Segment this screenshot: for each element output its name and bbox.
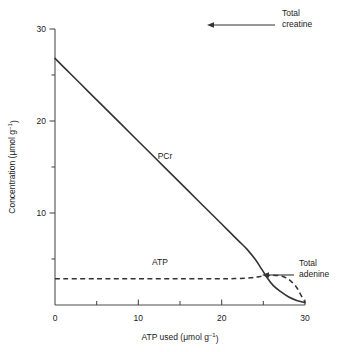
total-adenine-label-line2: adenine [299, 269, 330, 279]
data-series-group [55, 58, 305, 302]
series-inline-labels: PCr ATP [152, 151, 172, 267]
y-axis-title-main: Concentration (μmol g [7, 130, 17, 214]
concentration-vs-atp-used-line-chart: 102030 0102030 PCr ATP Total creatine To… [0, 0, 348, 352]
x-axis-title-close: ) [216, 334, 219, 344]
chart-figure: 102030 0102030 PCr ATP Total creatine To… [0, 0, 348, 352]
x-tick-label: 0 [53, 313, 58, 323]
x-axis-title: ATP used (μmol g−1) [141, 332, 218, 344]
total-adenine-label-line1: Total [299, 258, 317, 268]
x-tick-label: 10 [134, 313, 144, 323]
total-creatine-arrow-head [207, 22, 214, 28]
axes-group [55, 29, 305, 305]
x-tick-label: 20 [217, 313, 227, 323]
y-axis-tick-marks [50, 29, 56, 259]
x-axis-tick-labels: 0102030 [53, 313, 310, 323]
y-axis-title: Concentration (μmol g−1) [7, 120, 19, 214]
y-tick-label: 20 [37, 116, 47, 126]
total-creatine-label-line2: creatine [282, 19, 313, 29]
series-label-atp: ATP [152, 257, 168, 267]
y-tick-label: 30 [37, 24, 47, 34]
total-adenine-arrow-head [262, 272, 269, 278]
y-axis-title-close: ) [9, 120, 19, 123]
y-axis-tick-labels: 102030 [37, 24, 47, 218]
x-axis-tick-marks [97, 300, 305, 306]
y-tick-label: 10 [37, 208, 47, 218]
x-axis-title-main: ATP used (μmol g [141, 332, 209, 342]
series-label-pcr: PCr [158, 151, 173, 161]
x-tick-label: 30 [300, 313, 310, 323]
total-creatine-label-line1: Total [282, 8, 300, 18]
axis-titles: ATP used (μmol g−1) Concentration (μmol … [7, 120, 219, 344]
series-line-pcr [55, 58, 305, 302]
annotation-total-adenine: Total adenine [262, 258, 330, 279]
annotation-total-creatine: Total creatine [207, 8, 313, 29]
